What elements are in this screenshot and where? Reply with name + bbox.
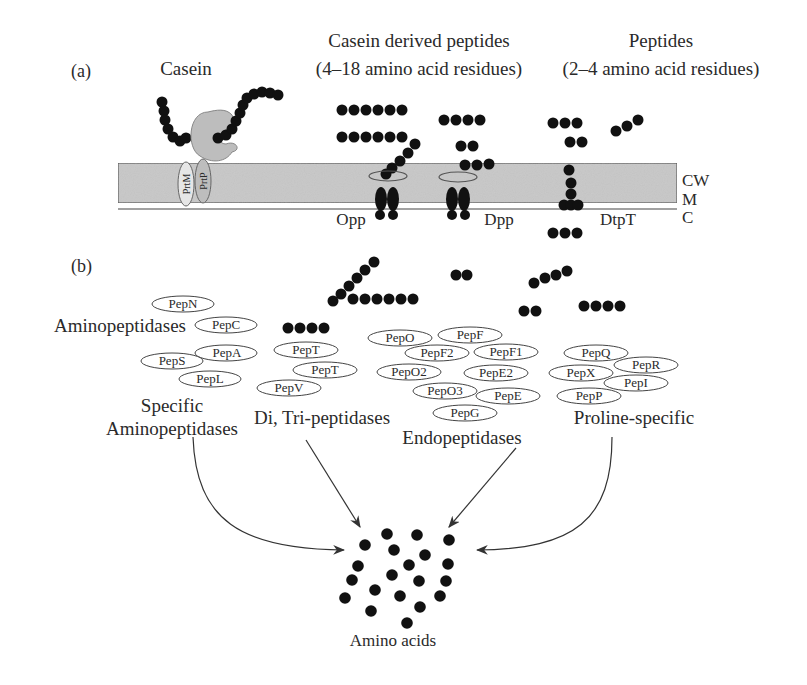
enzyme-pepf: PepF xyxy=(457,327,484,342)
arrow-specific-to-amino-acids xyxy=(193,437,344,550)
dtpt-label: DtpT xyxy=(600,210,637,229)
prtp-anchor: PrtP xyxy=(195,159,211,203)
amino-acids-label: Amino acids xyxy=(350,631,436,650)
enzyme-pepf1: PepF1 xyxy=(489,344,522,359)
layer-c-label: C xyxy=(682,208,693,227)
intracellular-peptides xyxy=(283,257,626,334)
panel-a-label: (a) xyxy=(71,61,91,82)
enzyme-pept-2: PepT xyxy=(311,362,339,377)
enzyme-pepx: PepX xyxy=(567,365,597,380)
layer-m-label: M xyxy=(682,190,697,209)
dipeptides xyxy=(439,115,495,171)
specific-label-line1: Specific xyxy=(141,395,203,416)
enzyme-pepg: PepG xyxy=(451,405,480,420)
proline-specific-label: Proline-specific xyxy=(574,407,694,428)
enzyme-pepr: PepR xyxy=(632,357,661,372)
casein-header: Casein xyxy=(160,58,212,79)
peptides-header: Peptides xyxy=(629,30,693,51)
opp-label: Opp xyxy=(336,210,365,229)
enzyme-pepi: PepI xyxy=(624,375,648,390)
enzyme-pepn: PepN xyxy=(169,296,199,311)
endopeptidases-group: PepO PepF PepF2 PepF1 PepO2 PepE2 PepO3 … xyxy=(368,327,540,448)
enzyme-pepc: PepC xyxy=(212,317,240,332)
prtm-label: PrtM xyxy=(181,174,192,195)
enzyme-pepv: PepV xyxy=(275,380,305,395)
proteolytic-system-diagram: (a) Casein Casein derived peptides (4–18… xyxy=(0,0,807,685)
flow-arrows xyxy=(193,437,612,550)
aminopeptidases-group: PepN PepC Aminopeptidases xyxy=(54,296,257,336)
arrow-ditri-to-amino-acids xyxy=(306,440,360,527)
casein-chain xyxy=(157,97,192,147)
arrow-endo-to-amino-acids xyxy=(449,448,516,527)
endopeptidases-label: Endopeptidases xyxy=(402,427,521,448)
panel-b-label: (b) xyxy=(71,256,92,277)
enzyme-pepl: PepL xyxy=(196,371,224,386)
specific-label-line2: Aminopeptidases xyxy=(106,418,238,439)
enzyme-pepo2: PepO2 xyxy=(391,364,426,379)
derived-peptides-range: (4–18 amino acid residues) xyxy=(316,58,522,80)
dpp-label: Dpp xyxy=(484,210,513,229)
enzyme-pepe: PepE xyxy=(494,388,522,403)
layer-cw-label: CW xyxy=(682,171,710,190)
enzyme-pepe2: PepE2 xyxy=(479,365,513,380)
enzyme-pepo3: PepO3 xyxy=(427,383,462,398)
enzyme-pepf2: PepF2 xyxy=(420,345,453,360)
enzyme-peps: PepS xyxy=(159,353,186,368)
prtp-label: PrtP xyxy=(198,172,209,190)
enzyme-pepa: PepA xyxy=(213,345,243,360)
arrow-proline-to-amino-acids xyxy=(477,437,612,550)
di-tri-label: Di, Tri-peptidases xyxy=(254,407,390,428)
peptides-range: (2–4 amino acid residues) xyxy=(563,58,760,80)
specific-aminopeptidases-group: PepA PepS PepL Specific Aminopeptidases xyxy=(106,345,257,439)
enzyme-pepp: PepP xyxy=(576,388,603,403)
free-amino-acids xyxy=(339,528,455,629)
proline-specific-group: PepQ PepR PepX PepI PepP Proline-specifi… xyxy=(549,345,694,428)
enzyme-pept-1: PepT xyxy=(292,342,320,357)
enzyme-pepq: PepQ xyxy=(582,345,612,360)
aminopeptidases-label: Aminopeptidases xyxy=(54,315,186,336)
di-tri-peptidases-group: PepT PepT PepV Di, Tri-peptidases xyxy=(254,342,390,428)
enzyme-pepo: PepO xyxy=(386,330,415,345)
prtm-anchor: PrtM xyxy=(178,162,194,206)
derived-peptides-header: Casein derived peptides xyxy=(328,30,510,51)
